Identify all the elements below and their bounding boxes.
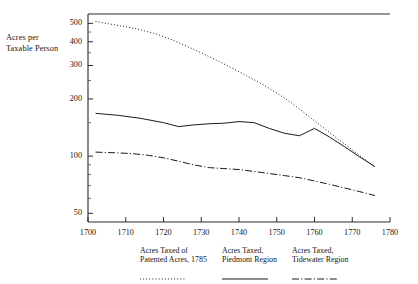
- x-axis-tick-label: 1750: [269, 229, 285, 237]
- chart-legend: Acres Taxed ofPatented Acres, 1785Acres …: [0, 246, 418, 271]
- x-axis-tick-label: 1780: [382, 229, 398, 237]
- legend-label-line2: Patented Acres, 1785: [140, 255, 207, 264]
- legend-line-sample: [140, 268, 186, 274]
- series-line-3: [96, 152, 375, 195]
- x-axis-tick-label: 1740: [231, 229, 247, 237]
- legend-label-line2: Tidewater Region: [292, 255, 348, 264]
- x-axis-tick-label: 1700: [80, 229, 96, 237]
- x-axis-tick-label: 1730: [193, 229, 209, 237]
- x-axis-tick-label: 1720: [155, 229, 171, 237]
- legend-line-sample: [292, 268, 338, 274]
- legend-label-line1: Acres Taxed,: [222, 246, 277, 255]
- legend-label-line1: Acres Taxed,: [292, 246, 348, 255]
- series-line-1: [96, 21, 375, 166]
- x-axis-tick-label: 1770: [344, 229, 360, 237]
- plot-svg: [88, 14, 390, 222]
- legend-label-line1: Acres Taxed of: [140, 246, 207, 255]
- legend-label-line2: Piedmont Region: [222, 255, 277, 264]
- axis-frame: [88, 14, 390, 222]
- legend-entry: Acres Taxed,Piedmont Region: [222, 246, 277, 274]
- legend-entry: Acres Taxed,Tidewater Region: [292, 246, 348, 274]
- x-axis-tick-label: 1760: [306, 229, 322, 237]
- legend-entry: Acres Taxed ofPatented Acres, 1785: [140, 246, 207, 274]
- plot-area: [88, 14, 390, 222]
- series-line-2: [96, 113, 375, 166]
- x-axis-tick-label: 1710: [118, 229, 134, 237]
- legend-line-sample: [222, 268, 268, 274]
